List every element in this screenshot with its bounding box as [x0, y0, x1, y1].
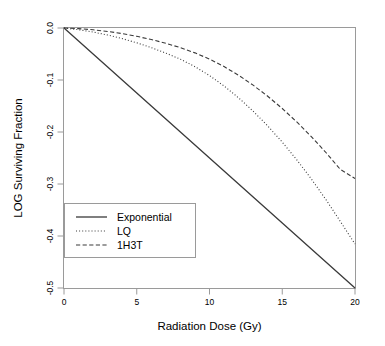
legend-label-exponential: Exponential	[117, 211, 172, 223]
y-tick-label-5: -0.5	[45, 280, 55, 295]
radiation-survival-chart: 0 5 10 15 20 0.0 -0.1 -0.2 -0.3 -0.4 -0.…	[0, 0, 385, 346]
x-tick-label-1: 5	[134, 297, 139, 307]
y-axis-title: LOG Surviving Fraction	[12, 98, 24, 218]
x-axis-title: Radiation Dose (Gy)	[157, 320, 261, 332]
y-tick-label-2: -0.2	[45, 124, 55, 139]
legend-label-1h3t: 1H3T	[117, 239, 143, 251]
legend-label-lq: LQ	[117, 225, 131, 237]
x-tick-label-3: 15	[278, 297, 288, 307]
y-tick-label-3: -0.3	[45, 176, 55, 191]
y-tick-label-0: 0.0	[45, 22, 55, 34]
y-tick-label-1: -0.1	[45, 72, 55, 87]
legend: Exponential LQ 1H3T	[65, 204, 196, 258]
x-tick-label-0: 0	[62, 297, 67, 307]
x-tick-label-2: 10	[205, 297, 215, 307]
x-tick-label-4: 20	[350, 297, 360, 307]
chart-background	[0, 0, 385, 346]
y-tick-label-4: -0.4	[45, 228, 55, 243]
